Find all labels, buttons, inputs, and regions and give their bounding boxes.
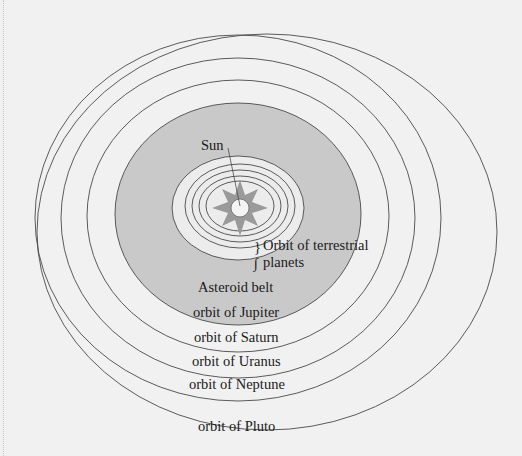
label-uranus: orbit of Uranus (192, 353, 281, 369)
label-asteroid-belt: Asteroid belt (198, 279, 273, 295)
solar-system-diagram: Sun } ∫ Orbit of terrestrial planets Ast… (0, 0, 522, 456)
label-jupiter: orbit of Jupiter (193, 304, 279, 320)
label-pluto: orbit of Pluto (198, 418, 275, 434)
label-terrestrial-line1: Orbit of terrestrial (263, 237, 369, 253)
label-neptune: orbit of Neptune (189, 376, 285, 392)
sun-core (231, 199, 249, 217)
brace-icon: } (254, 239, 261, 255)
label-terrestrial-line2: planets (263, 254, 304, 270)
label-sun: Sun (201, 137, 224, 153)
label-saturn: orbit of Saturn (194, 329, 279, 345)
